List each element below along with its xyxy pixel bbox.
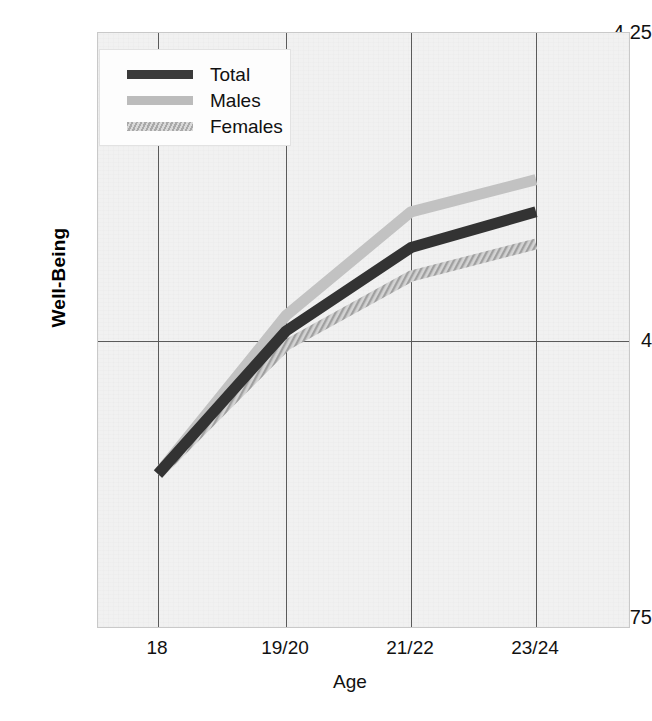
chart-legend: Total Males Females — [99, 49, 291, 146]
chart-figure: Well-Being 4.25 4 3.75 — [0, 0, 652, 721]
x-axis-title: Age — [0, 672, 652, 691]
legend-item-males: Males — [100, 87, 290, 113]
legend-label-males: Males — [210, 91, 261, 110]
legend-item-total: Total — [100, 61, 290, 87]
legend-swatch-males-icon — [127, 96, 193, 105]
legend-item-females: Females — [100, 113, 290, 139]
legend-label-females: Females — [210, 117, 283, 136]
legend-swatch-females-icon — [127, 122, 193, 131]
x-tick-label-21-22: 21/22 — [350, 638, 470, 657]
plot-inner: Total Males Females — [98, 33, 629, 627]
series-line-total — [158, 212, 536, 474]
legend-swatch-total-icon — [127, 70, 193, 79]
x-tick-label-18: 18 — [97, 638, 217, 657]
legend-label-total: Total — [210, 65, 250, 84]
y-axis-title: Well-Being — [49, 208, 68, 348]
x-tick-label-23-24: 23/24 — [475, 638, 595, 657]
series-line-females — [158, 244, 536, 474]
x-tick-label-19-20: 19/20 — [225, 638, 345, 657]
plot-area: Total Males Females — [97, 32, 630, 628]
